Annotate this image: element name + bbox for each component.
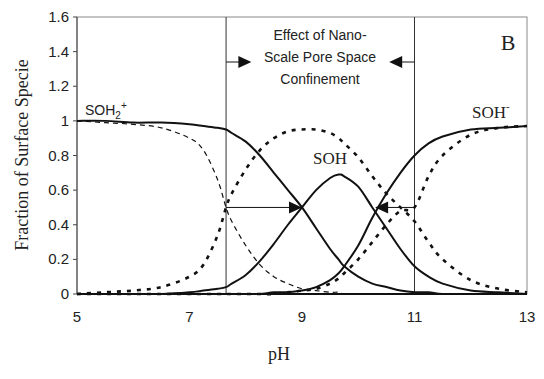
y-tick-label: 0.8 xyxy=(48,147,69,164)
x-tick-label: 11 xyxy=(407,308,423,325)
y-tick-label: 1.6 xyxy=(48,8,69,25)
x-tick-label: 13 xyxy=(519,308,536,325)
label-soh: SOH xyxy=(313,149,347,168)
x-tick-label: 9 xyxy=(298,308,306,325)
x-axis: 5791113 xyxy=(73,294,536,325)
series-line xyxy=(77,174,527,294)
y-tick-label: 1.4 xyxy=(48,43,69,60)
chart: 00.20.40.60.811.21.41.6 5791113 pH Fract… xyxy=(0,0,544,379)
label-soh-minus: SOH- xyxy=(472,100,510,122)
y-axis: 00.20.40.60.811.21.41.6 xyxy=(48,8,77,302)
series-line xyxy=(77,129,527,294)
label-soh2-plus: SOH2+ xyxy=(85,100,127,121)
y-tick-label: 0.6 xyxy=(48,181,69,198)
annotation-line-1: Effect of Nano- xyxy=(273,27,366,43)
y-tick-label: 0.4 xyxy=(48,216,69,233)
x-tick-label: 5 xyxy=(73,308,81,325)
y-tick-label: 1 xyxy=(61,112,69,129)
x-axis-title: pH xyxy=(268,344,290,364)
panel-label: B xyxy=(501,30,516,55)
series-line xyxy=(77,126,527,294)
y-tick-label: 1.2 xyxy=(48,77,69,94)
y-axis-title: Fraction of Surface Specie xyxy=(12,59,32,250)
y-tick-label: 0.2 xyxy=(48,250,69,267)
x-tick-label: 7 xyxy=(185,308,193,325)
annotation-line-2: Scale Pore Space xyxy=(264,49,376,65)
series-line xyxy=(77,126,527,294)
annotation-line-3: Confinement xyxy=(280,71,359,87)
y-tick-label: 0 xyxy=(61,285,69,302)
